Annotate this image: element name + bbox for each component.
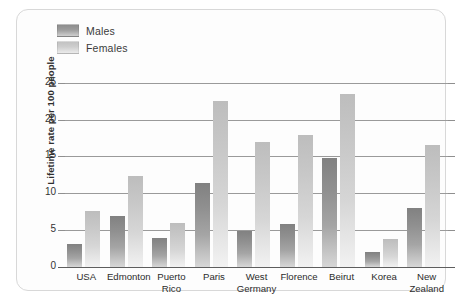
bar-group [405,68,448,267]
bar-group [278,68,321,267]
bar-group [320,68,363,267]
bar-group [108,68,151,267]
chart-legend: Males Females [57,23,128,57]
x-tick-label-line: Zealand [397,283,456,295]
bar-females [383,239,398,267]
legend-label-females: Females [86,42,128,54]
bar-females [298,135,313,267]
y-tick-label: 20 [45,113,56,124]
y-tick-label: 15 [45,149,56,160]
bar-males [110,216,125,267]
x-tick-label-line: Rico [142,283,201,295]
x-tick-label-line: New [397,271,456,283]
bar-females [340,94,355,267]
females-swatch-icon [57,41,79,54]
x-tick-label-line: Germany [227,283,286,295]
legend-item-males: Males [57,23,128,38]
bar-males [195,183,210,267]
y-tick-label: 10 [45,186,56,197]
tick-right-5 [448,230,455,231]
bar-males [152,238,167,267]
bar-females [170,223,185,267]
tick-right-20 [448,120,455,121]
legend-item-females: Females [57,40,128,55]
bar-females [128,176,143,267]
bar-females [85,211,100,267]
y-tick-label: 5 [50,223,56,234]
bar-group [235,68,278,267]
chart-card: Males Females Lifetime rate per 100 peop… [16,9,446,291]
x-axis-line [58,267,455,268]
bar-group [363,68,406,267]
bar-males [365,252,380,267]
tick-right-25 [448,83,455,84]
y-tick-label: 0 [50,260,56,271]
plot-area: 0510152025 [65,68,448,268]
bar-males [322,158,337,267]
bar-males [280,224,295,267]
bar-group [193,68,236,267]
tick-left-20 [58,120,65,121]
tick-left-25 [58,83,65,84]
bar-group [65,68,108,267]
tick-left-5 [58,230,65,231]
bar-series-layer [65,68,448,267]
tick-left-15 [58,156,65,157]
bar-females [425,145,440,267]
males-swatch-icon [57,24,79,37]
tick-left-10 [58,193,65,194]
bar-males [67,244,82,267]
tick-right-10 [448,193,455,194]
bar-females [255,142,270,267]
legend-label-males: Males [86,25,115,37]
bar-group [150,68,193,267]
bar-males [237,231,252,267]
tick-right-15 [448,156,455,157]
x-tick-label: NewZealand [397,271,456,294]
bar-males [407,208,422,267]
y-tick-label: 25 [45,76,56,87]
bar-females [213,101,228,267]
x-axis-labels: USAEdmontonPuertoRicoParisWestGermanyFlo… [65,271,448,301]
